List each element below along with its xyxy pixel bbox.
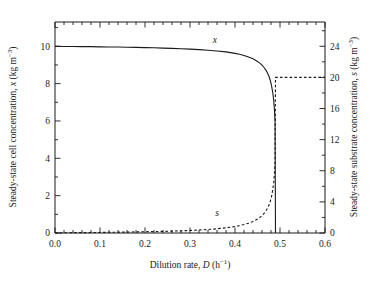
x-tick-label: 0.0 — [49, 239, 61, 249]
y-left-axis-title: Steady-state cell concentration, x (kg m… — [6, 47, 19, 208]
y-right-axis-title: Steady-state substrate concentration, s … — [347, 37, 360, 217]
x-tick-label: 0.6 — [319, 239, 331, 249]
y-right-title-units-close: ) — [349, 37, 360, 40]
y-left-tick-label: 6 — [45, 116, 50, 126]
y-right-tick-label: 20 — [330, 73, 340, 83]
x-tick-label: 0.1 — [94, 239, 106, 249]
x-axis-title-units-exponent: −1 — [220, 258, 227, 265]
y-right-tick-label: 24 — [330, 42, 340, 52]
y-left-tick-label: 10 — [41, 42, 51, 52]
curve-label-x: x — [212, 35, 218, 45]
x-axis-title-units-close: ) — [227, 260, 230, 271]
y-left-title-units-close: ) — [8, 47, 19, 50]
x-axis-title-units-open: (h — [210, 260, 221, 271]
y-left-tick-label: 0 — [45, 228, 50, 238]
y-left-tick-label: 2 — [45, 191, 50, 201]
y-left-tick-label: 8 — [45, 79, 50, 89]
y-left-tick-label: 4 — [45, 154, 50, 164]
x-axis-title-main: Dilution rate, — [150, 260, 203, 270]
y-right-tick-label: 16 — [330, 104, 340, 114]
y-right-tick-label: 12 — [330, 135, 340, 145]
x-axis-title: Dilution rate, D (h−1) — [150, 258, 231, 271]
y-left-title-units-open: (kg m — [8, 56, 19, 81]
x-tick-label: 0.3 — [184, 239, 196, 249]
y-right-tick-label: 8 — [330, 166, 335, 176]
y-right-title-main: Steady-state substrate concentration, — [349, 76, 359, 217]
x-tick-label: 0.5 — [274, 239, 286, 249]
chemostat-figure: 0.00.10.20.30.40.50.6024681004812162024 … — [0, 0, 370, 285]
y-right-tick-label: 0 — [330, 228, 335, 238]
curve-label-s: s — [215, 208, 219, 218]
x-tick-label: 0.4 — [229, 239, 241, 249]
y-left-title-main: Steady-state cell concentration, — [8, 86, 18, 207]
y-right-tick-label: 4 — [330, 197, 335, 207]
y-right-title-units-open: (kg m — [349, 47, 360, 72]
x-tick-label: 0.2 — [139, 239, 151, 249]
x-axis-title-symbol: D — [202, 260, 210, 270]
